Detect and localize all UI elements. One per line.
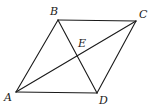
side-bc bbox=[58, 20, 136, 21]
diagonal-ac bbox=[16, 21, 136, 92]
diagonal-bd bbox=[58, 20, 97, 93]
label-c: C bbox=[139, 8, 148, 21]
label-d: D bbox=[98, 94, 108, 107]
label-a: A bbox=[3, 91, 12, 104]
side-cd bbox=[97, 21, 136, 93]
side-da bbox=[16, 92, 97, 93]
label-b: B bbox=[49, 5, 58, 18]
parallelogram-diagram: A B C D E bbox=[0, 0, 156, 108]
side-ab bbox=[16, 20, 58, 92]
label-e: E bbox=[77, 37, 86, 50]
